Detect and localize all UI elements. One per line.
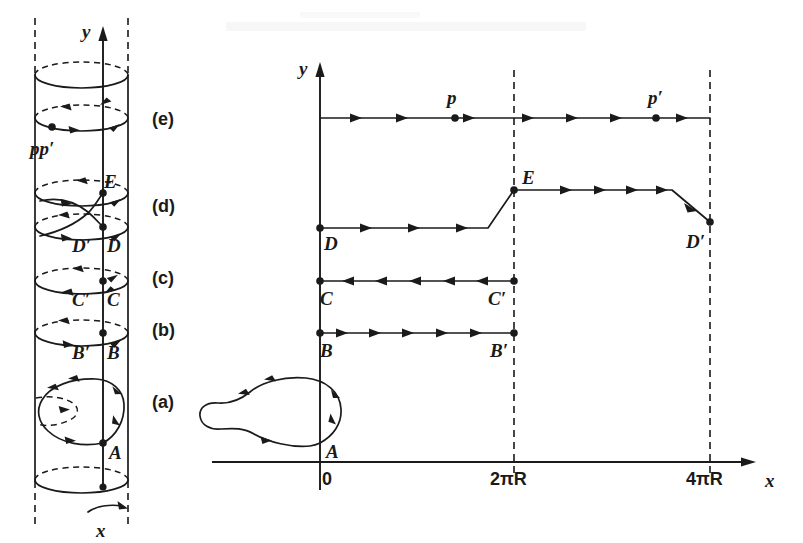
cylinder-loop-c: C′ C (c) bbox=[35, 265, 174, 310]
cylinder-x-axis-label: x bbox=[95, 520, 106, 541]
math-figure-svg: y x pp′ (e) bbox=[0, 0, 803, 543]
cylinder-loop-b: B′ B (b) bbox=[35, 317, 175, 363]
label-B-prime: B′ bbox=[489, 340, 508, 361]
label-A-cylinder: A bbox=[108, 442, 122, 463]
plane-x-axis-label: x bbox=[764, 470, 775, 491]
point-C-cylinder bbox=[99, 277, 107, 285]
point-C-prime bbox=[510, 277, 518, 285]
plane-x-tick-labels: 0 2πR 4πR bbox=[322, 469, 723, 489]
point-D-cylinder bbox=[99, 223, 107, 231]
label-A: A bbox=[325, 441, 339, 462]
unrolled-plane-view: x y 0 2πR 4πR bbox=[200, 58, 775, 491]
label-C-cylinder: C bbox=[107, 289, 120, 310]
label-pp-prime-cylinder: pp′ bbox=[28, 138, 54, 159]
point-D bbox=[316, 224, 324, 232]
label-E: E bbox=[521, 167, 535, 188]
cylinder-bottom-cap bbox=[35, 467, 128, 493]
label-p: p bbox=[445, 87, 457, 108]
cylinder-loop-e: pp′ (e) bbox=[28, 98, 174, 160]
cylinder-view: y x pp′ (e) bbox=[28, 18, 175, 541]
point-B-cylinder bbox=[99, 329, 107, 337]
cylinder-loop-d: E D′ D (d) bbox=[35, 171, 175, 256]
x-tick-label-0: 0 bbox=[322, 469, 332, 489]
point-B-prime bbox=[510, 329, 518, 337]
label-C: C bbox=[320, 288, 333, 309]
cylinder-loop-a: A (a) bbox=[36, 375, 174, 463]
point-A-cylinder bbox=[99, 439, 107, 447]
stage-label-e: (e) bbox=[152, 109, 174, 129]
point-p-prime bbox=[652, 114, 660, 122]
cylinder-top-cap bbox=[35, 62, 128, 88]
cylinder-x-direction-arrow: x bbox=[88, 501, 128, 541]
plane-period-lines bbox=[514, 70, 710, 478]
path-pp-prime: p p′ bbox=[320, 87, 710, 123]
point-D-prime bbox=[706, 218, 714, 226]
path-B-Bprime: B B′ bbox=[316, 328, 518, 361]
stage-label-b: (b) bbox=[152, 320, 175, 340]
label-D-prime: D′ bbox=[685, 231, 705, 252]
label-E-cylinder: E bbox=[103, 171, 117, 192]
figure-canvas: y x pp′ (e) bbox=[0, 0, 803, 543]
label-D: D bbox=[323, 233, 338, 254]
label-C-prime: C′ bbox=[488, 288, 506, 309]
x-tick-label-2piR: 2πR bbox=[490, 469, 527, 489]
label-B-cylinder: B bbox=[106, 342, 120, 363]
stage-label-a: (a) bbox=[152, 392, 174, 412]
label-D-cylinder: D bbox=[106, 235, 121, 256]
label-D-prime-cylinder: D′ bbox=[71, 235, 91, 256]
plane-y-axis-label: y bbox=[297, 58, 308, 79]
label-B-prime-cylinder: B′ bbox=[71, 342, 90, 363]
x-tick-label-4piR: 4πR bbox=[686, 469, 723, 489]
label-B: B bbox=[319, 340, 333, 361]
cylinder-y-axis-label: y bbox=[80, 21, 91, 42]
point-B bbox=[316, 329, 324, 337]
plane-y-axis: y bbox=[297, 58, 325, 490]
label-p-prime: p′ bbox=[646, 87, 663, 108]
point-C bbox=[316, 277, 324, 285]
point-p bbox=[451, 114, 459, 122]
path-D-E-Dprime: D E D′ bbox=[316, 167, 714, 254]
scan-artifact-band bbox=[226, 12, 586, 31]
stage-label-c: (c) bbox=[152, 268, 174, 288]
point-pp-prime-cylinder bbox=[48, 123, 56, 131]
path-C-Cprime: C C′ bbox=[316, 276, 518, 309]
point-E bbox=[510, 186, 518, 194]
stage-label-d: (d) bbox=[152, 196, 175, 216]
label-C-prime-cylinder: C′ bbox=[72, 289, 90, 310]
